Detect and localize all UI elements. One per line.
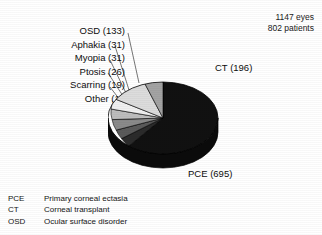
pie-chart-svg bbox=[108, 70, 226, 170]
legend-row: PCE Primary corneal ectasia bbox=[8, 193, 128, 205]
chart-page: 1147 eyes 802 patients OSD (133) Aphakia… bbox=[0, 0, 322, 235]
legend-row: OSD Ocular surface disorder bbox=[8, 216, 128, 228]
callout-myopia: Myopia (31) bbox=[0, 51, 128, 65]
legend-desc-ct: Corneal transplant bbox=[44, 204, 109, 216]
total-patients-text: 802 patients bbox=[268, 23, 314, 34]
legend-abbr-osd: OSD bbox=[8, 216, 44, 228]
pie-slices bbox=[111, 78, 218, 154]
legend-desc-osd: Ocular surface disorder bbox=[44, 216, 127, 228]
abbreviation-legend: PCE Primary corneal ectasia CT Corneal t… bbox=[8, 193, 128, 228]
callout-osd: OSD (133) bbox=[0, 24, 128, 38]
legend-desc-pce: Primary corneal ectasia bbox=[44, 193, 128, 205]
callout-aphakia: Aphakia (31) bbox=[0, 38, 128, 52]
total-eyes-text: 1147 eyes bbox=[268, 12, 314, 23]
totals-annotation: 1147 eyes 802 patients bbox=[268, 12, 314, 34]
pie-chart bbox=[108, 70, 226, 170]
legend-abbr-ct: CT bbox=[8, 204, 44, 216]
slice-label-ct: CT (196) bbox=[215, 62, 252, 73]
legend-abbr-pce: PCE bbox=[8, 193, 44, 205]
slice-label-pce: PCE (695) bbox=[188, 168, 232, 179]
legend-row: CT Corneal transplant bbox=[8, 204, 128, 216]
